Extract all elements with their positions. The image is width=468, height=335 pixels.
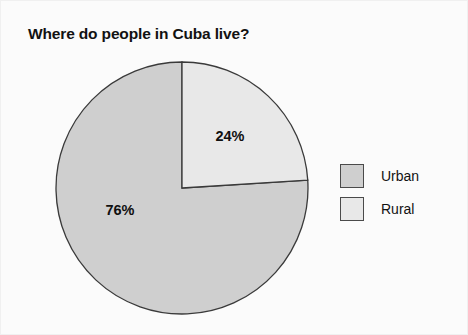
legend-item-urban[interactable]: Urban	[340, 163, 450, 189]
legend-swatch-urban	[340, 164, 364, 188]
chart-canvas: Where do people in Cuba live? 76% 24% Ur…	[0, 0, 468, 335]
pie-label-rural: 24%	[215, 128, 244, 144]
legend-item-rural[interactable]: Rural	[340, 196, 450, 222]
pie-slice-rural[interactable]	[182, 62, 308, 188]
legend-label-rural: Rural	[381, 201, 414, 217]
legend-label-urban: Urban	[381, 168, 419, 184]
legend: Urban Rural	[340, 163, 450, 229]
legend-swatch-rural	[340, 197, 364, 221]
pie-label-urban: 76%	[105, 202, 134, 218]
pie-chart-svg: 76% 24%	[55, 61, 309, 315]
pie-chart: 76% 24%	[55, 61, 309, 315]
page-title: Where do people in Cuba live?	[28, 25, 249, 43]
